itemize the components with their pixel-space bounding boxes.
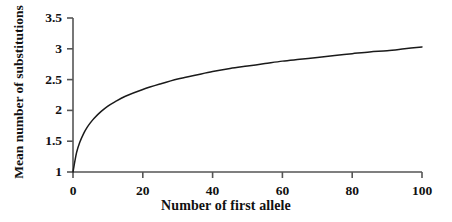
x-tick-label: 0	[70, 184, 77, 198]
plot-area	[0, 0, 452, 222]
x-tick-marks	[73, 172, 422, 178]
y-tick-marks	[67, 18, 73, 172]
x-tick-label: 80	[345, 184, 359, 198]
x-axis-title: Number of first allele	[0, 198, 452, 214]
y-axis-title: Mean number of substitutions	[11, 0, 27, 197]
data-series-line	[73, 47, 422, 172]
x-tick-label: 20	[136, 184, 150, 198]
x-tick-label: 40	[206, 184, 220, 198]
x-tick-label: 100	[412, 184, 432, 198]
x-tick-label: 60	[276, 184, 290, 198]
chart-figure: 11.522.533.5 020406080100 Number of firs…	[0, 0, 452, 222]
